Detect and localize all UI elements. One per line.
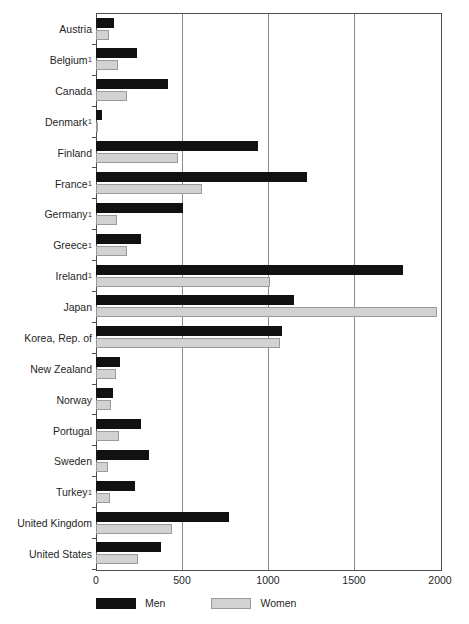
bar-women <box>96 431 119 441</box>
bar-men <box>96 388 113 398</box>
axis-tick <box>92 569 96 570</box>
x-axis-tick-label: 1000 <box>256 575 279 586</box>
bar-men <box>96 110 102 120</box>
bar-men <box>96 481 135 491</box>
y-axis-label: Austria <box>0 14 92 45</box>
bar-group <box>96 477 440 508</box>
bar-men <box>96 326 282 336</box>
y-axis-label: Japan <box>0 292 92 323</box>
bar-group <box>96 415 440 446</box>
bar-men <box>96 18 114 28</box>
y-axis-label: Denmark1 <box>0 107 92 138</box>
bar-men <box>96 234 141 244</box>
y-axis-label: Korea, Rep. of <box>0 323 92 354</box>
bar-women <box>96 91 127 101</box>
legend-item-men: Men <box>96 598 165 609</box>
legend-item-women: Women <box>211 598 296 609</box>
x-axis-tick-label: 2000 <box>428 575 451 586</box>
y-axis-label: France1 <box>0 168 92 199</box>
bar-women <box>96 246 127 256</box>
bar-men <box>96 295 294 305</box>
bar-women <box>96 462 108 472</box>
legend-swatch-icon <box>211 598 251 609</box>
bar-group <box>96 354 440 385</box>
x-axis-tick-label: 500 <box>173 575 191 586</box>
bar-group <box>96 14 440 45</box>
bar-group <box>96 446 440 477</box>
y-axis-label: United States <box>0 539 92 570</box>
bar-women <box>96 153 178 163</box>
bar-chart: AustriaBelgium1CanadaDenmark1FinlandFran… <box>0 0 469 624</box>
chart-legend: MenWomen <box>96 598 296 609</box>
bar-group <box>96 385 440 416</box>
bar-group <box>96 199 440 230</box>
bar-group <box>96 45 440 76</box>
y-axis-label: Ireland1 <box>0 261 92 292</box>
bar-men <box>96 265 403 275</box>
x-axis-tick-label: 1500 <box>342 575 365 586</box>
bar-men <box>96 172 307 182</box>
y-axis-label: Greece1 <box>0 230 92 261</box>
x-axis-tick-label: 0 <box>93 575 99 586</box>
bar-group <box>96 261 440 292</box>
bar-group <box>96 539 440 570</box>
bar-group <box>96 292 440 323</box>
bar-men <box>96 450 149 460</box>
bar-women <box>96 493 110 503</box>
bar-group <box>96 323 440 354</box>
bar-women <box>96 369 116 379</box>
y-axis-labels: AustriaBelgium1CanadaDenmark1FinlandFran… <box>0 14 92 570</box>
bar-men <box>96 512 229 522</box>
bar-group <box>96 168 440 199</box>
bar-men <box>96 48 137 58</box>
bar-women <box>96 277 270 287</box>
bar-men <box>96 357 120 367</box>
bar-men <box>96 203 183 213</box>
bar-group <box>96 230 440 261</box>
y-axis-label: United Kingdom <box>0 508 92 539</box>
y-axis-label: New Zealand <box>0 354 92 385</box>
bar-group <box>96 138 440 169</box>
y-axis-label: Germany1 <box>0 199 92 230</box>
bar-women <box>96 524 172 534</box>
bar-group <box>96 107 440 138</box>
bar-women <box>96 122 98 132</box>
bar-women <box>96 338 280 348</box>
bar-women <box>96 30 109 40</box>
bar-men <box>96 542 161 552</box>
bar-women <box>96 307 437 317</box>
legend-swatch-icon <box>96 598 136 609</box>
bar-men <box>96 141 258 151</box>
bar-women <box>96 60 118 70</box>
bar-men <box>96 79 168 89</box>
y-axis-label: Finland <box>0 138 92 169</box>
bar-group <box>96 508 440 539</box>
x-axis-labels: 0500100015002000 <box>0 575 469 591</box>
y-axis-label: Sweden <box>0 446 92 477</box>
y-axis-label: Portugal <box>0 415 92 446</box>
bar-men <box>96 419 141 429</box>
bars-layer <box>96 14 440 570</box>
y-axis-label: Belgium1 <box>0 45 92 76</box>
legend-label: Women <box>260 598 296 609</box>
y-axis-label: Norway <box>0 385 92 416</box>
bar-women <box>96 400 111 410</box>
y-axis-label: Canada <box>0 76 92 107</box>
y-axis-label: Turkey1 <box>0 477 92 508</box>
bar-group <box>96 76 440 107</box>
legend-label: Men <box>145 598 165 609</box>
bar-women <box>96 184 202 194</box>
bar-women <box>96 554 138 564</box>
bar-women <box>96 215 117 225</box>
